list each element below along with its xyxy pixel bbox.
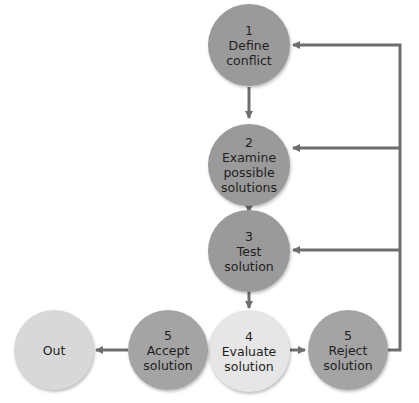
node-examine-solutions: 2 Examine possible solutions — [208, 124, 290, 206]
node-out: Out — [14, 310, 94, 390]
node-label: Evaluate — [222, 344, 277, 359]
node-label: possible — [223, 165, 274, 180]
node-number: 5 — [344, 328, 352, 343]
node-label: Reject — [329, 343, 368, 358]
node-number: 2 — [245, 135, 253, 150]
node-number: 1 — [245, 23, 253, 38]
node-label: Out — [43, 343, 66, 358]
node-accept-solution: 5 Accept solution — [128, 310, 208, 390]
node-label: solutions — [221, 180, 277, 195]
node-number: 5 — [164, 328, 172, 343]
node-evaluate-solution: 4 Evaluate solution — [208, 310, 290, 392]
node-number: 3 — [245, 229, 253, 244]
node-label: Examine — [222, 150, 276, 165]
node-test-solution: 3 Test solution — [208, 210, 290, 292]
node-label: solution — [224, 259, 274, 274]
node-number: 4 — [245, 329, 253, 344]
node-define-conflict: 1 Define conflict — [208, 4, 290, 86]
node-label: conflict — [226, 53, 272, 68]
node-label: Accept — [147, 343, 190, 358]
node-reject-solution: 5 Reject solution — [308, 310, 388, 390]
node-label: Define — [229, 38, 270, 53]
node-label: Test — [237, 244, 262, 259]
node-label: solution — [143, 358, 193, 373]
node-label: solution — [323, 358, 373, 373]
node-label: solution — [224, 359, 274, 374]
